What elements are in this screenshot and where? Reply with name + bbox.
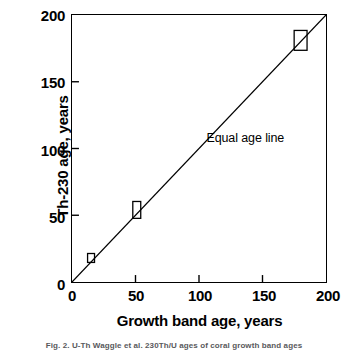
figure-caption: Fig. 2. U-Th Waggle et al. 230Th/U ages … (0, 341, 348, 350)
x-tick-200: 200 (316, 287, 340, 304)
y-tick-100: 100 (41, 141, 65, 158)
y-tick-50: 50 (49, 208, 65, 225)
y-tick-150: 150 (41, 74, 65, 91)
y-tick-200: 200 (41, 7, 65, 24)
x-tick-0: 0 (68, 287, 76, 304)
x-tick-100: 100 (188, 287, 212, 304)
x-tick-150: 150 (252, 287, 276, 304)
data-markers (88, 30, 307, 262)
x-axis-title: Growth band age, years (71, 312, 328, 329)
x-tick-50: 50 (128, 287, 144, 304)
y-tick-0: 0 (57, 276, 65, 293)
plot-area: 050100150200 050100150200 Equal age line (71, 14, 327, 283)
figure-equal-age-scatter: Th-230 age, years Growth band age, years… (0, 0, 348, 350)
equal-age-line-label: Equal age line (206, 131, 284, 145)
equal-age-line (72, 15, 326, 282)
plot-canvas (72, 15, 326, 282)
